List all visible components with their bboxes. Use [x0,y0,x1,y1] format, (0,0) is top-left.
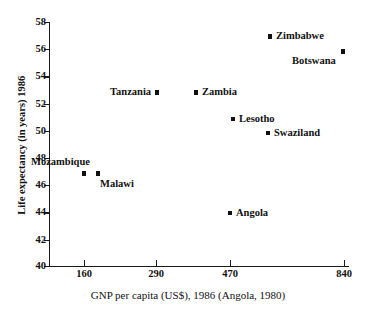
data-label-botswana: Botswana [292,56,336,67]
y-tick-label: 58 [20,17,46,28]
y-tick-label: 40 [20,261,46,272]
data-label-zimbabwe: Zimbabwe [276,31,324,42]
data-point-malawi[interactable] [96,171,101,176]
x-tick-label: 290 [136,269,176,280]
plot-area: 58 56 54 52 50 48 46 44 42 40 160 290 47… [0,0,376,320]
x-tick-mark [84,260,85,266]
data-label-angola: Angola [236,208,268,219]
x-tick-mark [344,260,345,266]
data-label-lesotho: Lesotho [239,114,275,125]
data-point-swaziland[interactable] [266,131,271,136]
x-tick-label: 160 [64,269,104,280]
data-point-botswana[interactable] [341,49,346,54]
data-label-zambia: Zambia [202,87,237,98]
data-label-mozambique: Mozambique [31,157,90,168]
data-point-tanzania[interactable] [155,90,160,95]
data-label-swaziland: Swaziland [274,128,320,139]
x-axis-line [49,266,349,267]
scatter-plot-figure: 58 56 54 52 50 48 46 44 42 40 160 290 47… [0,0,376,320]
data-label-tanzania: Tanzania [110,87,151,98]
data-point-lesotho[interactable] [231,117,236,122]
y-axis-title: Life expectancy (in years) 1986 [17,40,28,250]
data-point-angola[interactable] [228,211,233,216]
data-point-mozambique[interactable] [82,171,87,176]
x-tick-label: 840 [324,269,364,280]
y-axis-line [49,22,50,267]
x-tick-mark [156,260,157,266]
x-tick-mark [230,260,231,266]
data-point-zambia[interactable] [194,90,199,95]
data-point-zimbabwe[interactable] [268,34,273,39]
x-tick-label: 470 [210,269,250,280]
data-label-malawi: Malawi [100,179,134,190]
x-axis-title: GNP per capita (US$), 1986 (Angola, 1980… [0,290,376,301]
